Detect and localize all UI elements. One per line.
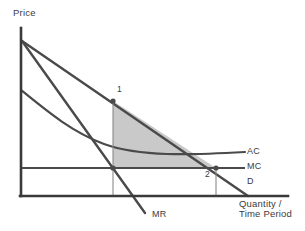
diagram-canvas [0, 0, 305, 231]
y-axis-label: Price [13, 8, 36, 18]
ac-curve-label: AC [247, 147, 260, 156]
x-axis-label-line2: Time Period [239, 208, 292, 219]
mr-curve-label: MR [152, 210, 166, 219]
point-2-label: 2 [205, 170, 210, 179]
point-1-marker [110, 98, 115, 103]
point-1-label: 1 [117, 85, 122, 94]
deadweight-loss-shaded-region [113, 101, 216, 168]
x-axis-label: Quantity /Time Period [239, 199, 292, 219]
mr-mc-intersection-marker [110, 165, 115, 170]
point-2-marker [213, 165, 218, 170]
economics-diagram: Price Quantity /Time Period AC MC D MR 1… [0, 0, 305, 231]
mc-curve-label: MC [247, 162, 261, 171]
demand-curve-label: D [247, 177, 254, 186]
